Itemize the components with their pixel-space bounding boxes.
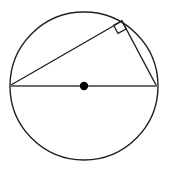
geometry-canvas	[0, 0, 170, 180]
geometry-figure	[0, 0, 170, 180]
center-point-dot	[80, 82, 88, 90]
